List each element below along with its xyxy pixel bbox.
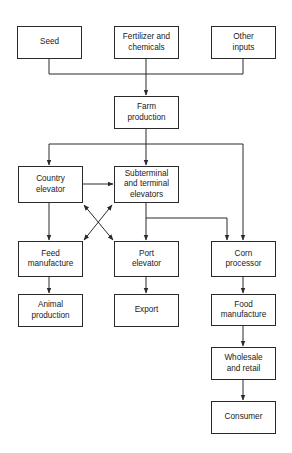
connector-lines [0, 0, 292, 453]
node-country-elevator: Country elevator [18, 166, 83, 203]
node-corn-processor: Corn processor [211, 241, 276, 277]
node-port-elevator: Port elevator [114, 241, 179, 277]
node-wholesale-retail: Wholesale and retail [211, 347, 276, 380]
node-other-inputs: Other inputs [211, 26, 276, 59]
node-animal-production: Animal production [18, 294, 83, 327]
node-consumer: Consumer [211, 401, 276, 434]
node-feed-manufacture: Feed manufacture [18, 241, 83, 277]
farm-bus [49, 129, 243, 144]
arrow-subterminal-to-corn [146, 218, 227, 240]
node-food-manufacture: Food manufacture [211, 294, 276, 326]
node-export: Export [114, 294, 179, 327]
node-seed: Seed [17, 26, 82, 59]
node-subterminal: Subterminal and terminal elevators [114, 166, 179, 203]
node-fertilizer: Fertilizer and chemicals [114, 26, 179, 59]
node-farm-production: Farm production [114, 96, 179, 129]
